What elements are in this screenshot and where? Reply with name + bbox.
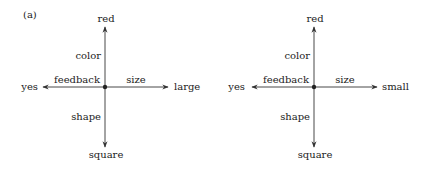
right-axis-up-label: color [284,50,310,62]
panel-label: (a) [23,9,37,21]
right-bottom-label: square [298,149,333,161]
left-axis-right-label: size [126,74,146,86]
diagram-canvas [0,0,427,185]
right-axis-right-label: size [335,74,355,86]
left-axes [43,27,168,147]
right-left-label: yes [228,81,245,93]
left-top-label: red [97,13,114,25]
left-right-label: large [174,81,200,93]
left-axis-up-label: color [75,50,101,62]
left-left-label: yes [21,81,38,93]
left-bottom-label: square [89,149,124,161]
right-right-label: small [382,81,409,93]
left-axis-left-label: feedback [54,74,100,86]
right-axis-left-label: feedback [263,74,309,86]
right-axis-down-label: shape [280,111,310,123]
right-top-label: red [306,13,323,25]
origin-dot [312,85,316,89]
origin-dot [103,85,107,89]
left-axis-down-label: shape [71,111,101,123]
right-axes [252,27,377,147]
